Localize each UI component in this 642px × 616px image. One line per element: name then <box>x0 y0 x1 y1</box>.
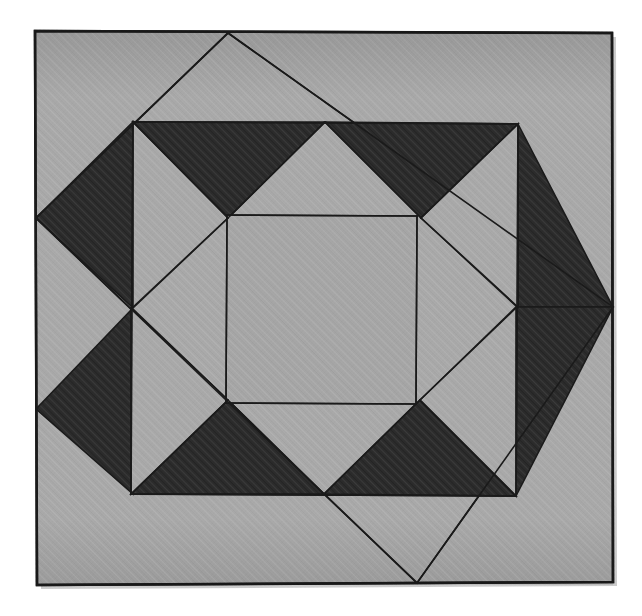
fabric-shading <box>35 31 613 585</box>
quilt-block-figure <box>0 0 642 616</box>
quilt-artwork-stage <box>0 0 642 616</box>
